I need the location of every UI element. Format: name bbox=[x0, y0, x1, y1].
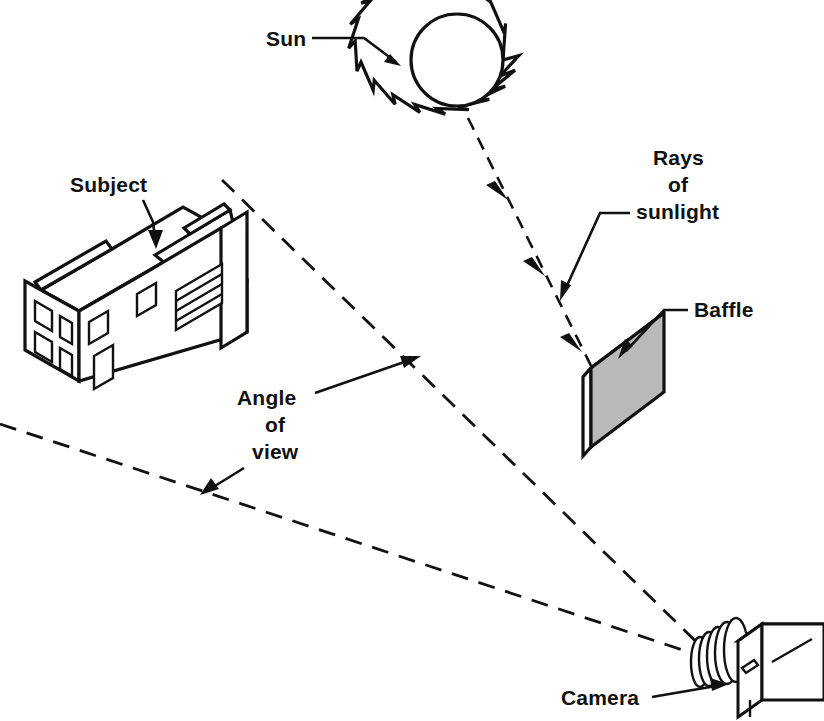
rays-label-line1: Rays bbox=[653, 146, 704, 169]
camera-body-side bbox=[762, 624, 824, 700]
angle-label-line3: view bbox=[252, 440, 299, 463]
subject-label: Subject bbox=[70, 173, 147, 196]
diagram-canvas: Sun Rays of sunlight Baffle bbox=[0, 0, 824, 721]
angle-label-line2: of bbox=[265, 413, 286, 436]
lighting-diagram: Sun Rays of sunlight Baffle bbox=[0, 0, 824, 721]
baffle-label: Baffle bbox=[694, 298, 754, 321]
rays-label-line2: of bbox=[668, 173, 689, 196]
sun-label: Sun bbox=[266, 27, 306, 50]
camera-label: Camera bbox=[561, 686, 639, 709]
angle-label-line1: Angle bbox=[237, 386, 296, 409]
sun-disc bbox=[411, 14, 503, 106]
house-right-wall bbox=[221, 212, 247, 348]
rays-label-line3: sunlight bbox=[636, 200, 719, 223]
